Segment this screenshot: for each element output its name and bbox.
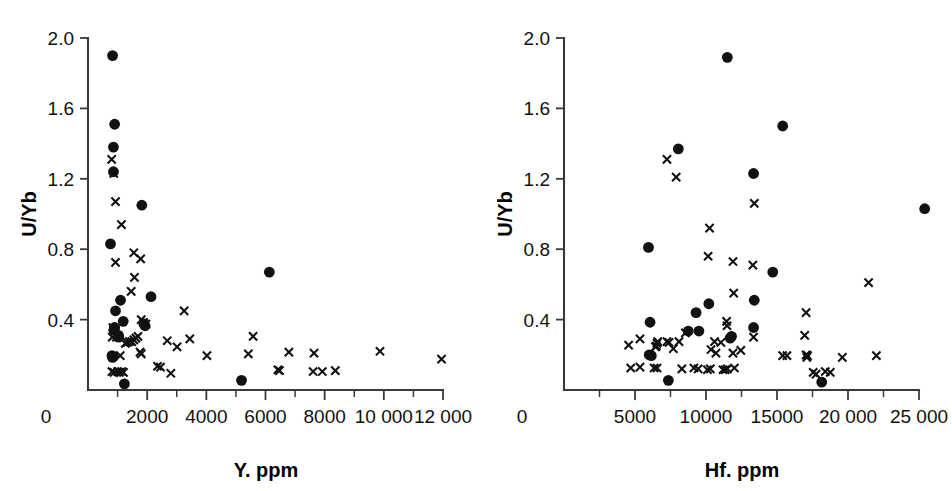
data-point-cross <box>130 273 138 281</box>
data-point-cross <box>127 287 135 295</box>
data-point-cross <box>730 289 738 297</box>
x-tick-label: 4000 <box>185 406 227 427</box>
y-tick-label: 1.6 <box>48 98 74 119</box>
data-point-cross <box>249 332 257 340</box>
data-point-cross <box>678 365 686 373</box>
data-point-circle <box>777 121 788 132</box>
data-point-circle <box>663 375 674 386</box>
x-axis-title-left: Y. ppm <box>234 459 298 481</box>
x-tick-label: 8000 <box>304 406 346 427</box>
y-tick-label: 1.2 <box>524 169 550 190</box>
data-point-circle <box>748 322 759 333</box>
data-point-circle <box>816 377 827 388</box>
data-point-cross <box>331 367 339 375</box>
x-tick-label: 0 <box>517 406 528 427</box>
axes-left <box>88 38 443 390</box>
x-tick-label: 0 <box>41 406 52 427</box>
data-point-cross <box>872 352 880 360</box>
data-point-circle <box>646 350 657 361</box>
data-point-circle <box>119 378 130 389</box>
y-axis-title-right: U/Yb <box>494 191 516 237</box>
data-point-cross <box>625 341 633 349</box>
axes-right <box>564 38 919 390</box>
data-point-cross <box>663 155 671 163</box>
data-point-circle <box>264 267 275 278</box>
y-tick-label: 0.8 <box>524 239 550 260</box>
data-point-circle <box>749 295 760 306</box>
x-tick-label: 10000 <box>680 406 733 427</box>
data-point-circle <box>146 291 157 302</box>
data-point-cross <box>636 363 644 371</box>
x-tick-label: 15000 <box>751 406 804 427</box>
x-tick-label: 12 000 <box>414 406 472 427</box>
data-point-circle <box>109 119 120 130</box>
data-point-circle <box>767 267 778 278</box>
data-point-cross <box>285 348 293 356</box>
y-tick-label: 2.0 <box>48 28 74 49</box>
data-point-cross <box>812 370 820 378</box>
data-point-cross <box>636 335 644 343</box>
data-point-cross <box>180 307 188 315</box>
data-point-cross <box>750 199 758 207</box>
y-tick-label: 0.4 <box>48 310 75 331</box>
data-point-circle <box>919 203 930 214</box>
data-point-circle <box>110 305 121 316</box>
data-point-circle <box>136 200 147 211</box>
y-tick-label: 1.2 <box>48 169 74 190</box>
data-point-cross <box>173 343 181 351</box>
data-point-cross <box>730 364 738 372</box>
data-point-cross <box>167 369 175 377</box>
data-point-circle <box>673 143 684 154</box>
data-point-cross <box>729 257 737 265</box>
y-tick-label: 0.8 <box>48 239 74 260</box>
x-axis-title-right: Hf. ppm <box>705 459 779 481</box>
data-point-cross <box>309 367 317 375</box>
y-axis-title-left: U/Yb <box>18 191 40 237</box>
data-point-cross <box>137 255 145 263</box>
data-point-cross <box>864 279 872 287</box>
data-point-circle <box>645 317 656 328</box>
plot-svg-left: 0.40.81.21.62.00200040006000800010 00012… <box>0 0 476 491</box>
data-point-cross <box>802 308 810 316</box>
data-point-circle <box>108 142 119 153</box>
data-point-cross <box>244 350 252 358</box>
x-tick-label: 5000 <box>614 406 656 427</box>
data-point-cross <box>704 252 712 260</box>
data-point-circle <box>115 295 126 306</box>
data-point-cross <box>376 347 384 355</box>
data-point-circle <box>703 298 714 309</box>
data-point-cross <box>737 346 745 354</box>
data-point-cross <box>717 338 725 346</box>
data-point-cross <box>318 367 326 375</box>
data-points-left <box>105 50 446 389</box>
axis-spine <box>88 38 443 390</box>
data-point-cross <box>111 198 119 206</box>
data-point-cross <box>108 155 116 163</box>
data-point-cross <box>705 224 713 232</box>
y-tick-label: 2.0 <box>524 28 550 49</box>
data-point-cross <box>437 355 445 363</box>
data-point-cross <box>117 220 125 228</box>
data-point-cross <box>627 364 635 372</box>
data-point-circle <box>694 326 705 337</box>
data-point-cross <box>672 173 680 181</box>
data-point-circle <box>691 307 702 318</box>
data-point-cross <box>111 258 119 266</box>
y-tick-label: 0.4 <box>524 310 551 331</box>
data-point-circle <box>236 375 247 386</box>
x-tick-label: 2000 <box>126 406 168 427</box>
y-tick-label: 1.6 <box>524 98 550 119</box>
data-point-cross <box>186 335 194 343</box>
x-tick-label: 25 000 <box>890 406 948 427</box>
data-point-circle <box>643 242 654 253</box>
x-tick-label: 20 000 <box>819 406 877 427</box>
data-point-cross <box>163 337 171 345</box>
data-point-cross <box>838 353 846 361</box>
data-points-right <box>625 52 931 388</box>
data-point-cross <box>310 349 318 357</box>
data-point-cross <box>801 331 809 339</box>
figure-root: 0.40.81.21.62.00200040006000800010 00012… <box>0 0 952 491</box>
data-point-circle <box>107 50 118 61</box>
data-point-cross <box>203 352 211 360</box>
x-tick-label: 10 000 <box>355 406 413 427</box>
